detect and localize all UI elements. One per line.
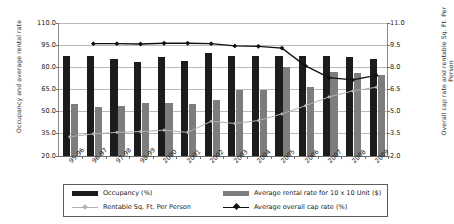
line-marker — [209, 41, 214, 46]
y-axis-right-title: Overall cap rate and rentable Sq. Ft. Pe… — [440, 0, 454, 146]
line-marker — [92, 132, 96, 136]
line-marker — [91, 41, 96, 46]
y-tick-label-right: 2.0 — [390, 153, 424, 160]
line-marker — [233, 122, 237, 126]
line-black-swatch — [223, 204, 249, 210]
line-marker — [139, 130, 143, 134]
line-marker — [162, 128, 166, 132]
y-axis-left-ticks: 20.035.050.065.080.095.0110.0 — [14, 0, 56, 224]
bar-black-swatch — [72, 191, 98, 196]
line-series — [70, 87, 376, 137]
line-series — [93, 43, 376, 80]
legend-label: Occupancy (%) — [103, 189, 152, 197]
y-tick-label-left: 110.0 — [14, 20, 56, 27]
line-marker — [350, 77, 355, 82]
line-marker — [351, 89, 355, 93]
legend-item: Average rental rate for 10 x 10 Unit ($) — [223, 189, 381, 197]
line-marker — [162, 41, 167, 46]
line-marker — [209, 119, 213, 123]
legend-label: Rentable Sq. Ft. Per Person — [103, 203, 191, 211]
line-marker — [138, 42, 143, 47]
bar-gray-swatch — [223, 191, 249, 196]
line-marker — [68, 135, 72, 139]
line-marker — [327, 95, 331, 99]
legend-item: Rentable Sq. Ft. Per Person — [72, 203, 191, 211]
y-tick-label-right: 6.5 — [390, 86, 424, 93]
legend-label: Average rental rate for 10 x 10 Unit ($) — [254, 189, 381, 197]
y-tick-label-right: 5.0 — [390, 108, 424, 115]
chart-legend: Occupancy (%)Average rental rate for 10 … — [63, 184, 388, 217]
legend-label: Average overall cap rate (%) — [254, 203, 347, 211]
line-marker — [257, 119, 261, 123]
y-tick-label-left: 80.0 — [14, 64, 56, 71]
line-marker — [115, 41, 120, 46]
line-gray-swatch — [72, 204, 98, 210]
line-marker — [327, 75, 332, 80]
y-tick-label-left: 50.0 — [14, 108, 56, 115]
line-marker — [186, 131, 190, 135]
y-tick-label-right: 8.0 — [390, 64, 424, 71]
line-marker — [374, 85, 378, 89]
y-tick-label-right: 11.0 — [390, 20, 424, 27]
line-marker — [374, 73, 379, 78]
y-tick-label-left: 65.0 — [14, 86, 56, 93]
line-marker — [304, 104, 308, 108]
line-marker — [232, 44, 237, 49]
y-tick-label-left: 35.0 — [14, 130, 56, 137]
y-axis-right-ticks: 2.03.55.06.58.09.511.0 — [390, 0, 424, 224]
line-marker — [115, 131, 119, 135]
x-tick-mark — [388, 156, 389, 159]
y-tick-label-left: 95.0 — [14, 42, 56, 49]
line-marker — [256, 44, 261, 49]
y-tick-label-right: 9.5 — [390, 42, 424, 49]
y-tick-label-left: 20.0 — [14, 153, 56, 160]
legend-item: Average overall cap rate (%) — [223, 203, 347, 211]
y-tick-label-right: 3.5 — [390, 130, 424, 137]
line-series-overlay — [58, 23, 388, 156]
line-marker — [280, 112, 284, 116]
legend-item: Occupancy (%) — [72, 189, 152, 197]
line-marker — [185, 41, 190, 46]
